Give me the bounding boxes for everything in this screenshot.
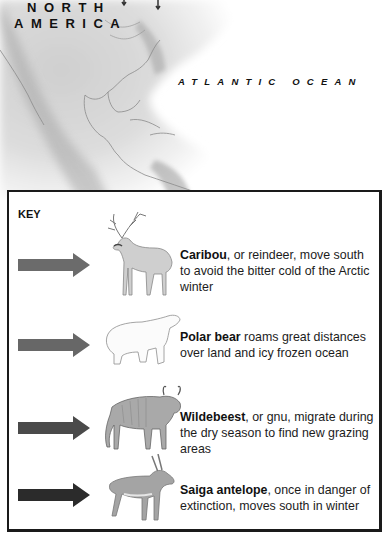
- key-entry-description: Wildebeest, or gnu, migrate during the d…: [180, 409, 375, 457]
- ocean-label: ATLANTIC OCEAN: [178, 76, 363, 87]
- key-title: KEY: [18, 208, 41, 220]
- continent-label-north: NORTH: [27, 0, 111, 15]
- map: NORTH AMERICA ATLANTIC OCEAN: [0, 0, 381, 200]
- animal-name: Wildebeest: [180, 410, 245, 424]
- key-entry-description: Polar bear roams great distances over la…: [180, 329, 375, 361]
- continent-label-america: AMERICA: [14, 16, 127, 31]
- wildebeest-icon: [102, 385, 184, 455]
- animal-name: Polar bear: [180, 330, 241, 344]
- saiga-antelope-icon: [102, 454, 182, 526]
- polar-bear-icon: [102, 312, 182, 372]
- migration-arrow-icon: [18, 253, 90, 277]
- migration-arrow-icon: [18, 333, 90, 357]
- key-entry-description: Saiga antelope, once in danger of extinc…: [180, 482, 375, 514]
- migration-arrow-icon: [18, 416, 90, 440]
- animal-name: Caribou: [180, 248, 227, 262]
- caribou-icon: [102, 210, 177, 305]
- key-legend: KEY Caribou, or reindeer, move south to …: [7, 190, 382, 532]
- animal-name: Saiga antelope: [180, 483, 267, 497]
- key-entry-description: Caribou, or reindeer, move south to avoi…: [180, 247, 375, 295]
- migration-arrow-icon: [18, 483, 90, 507]
